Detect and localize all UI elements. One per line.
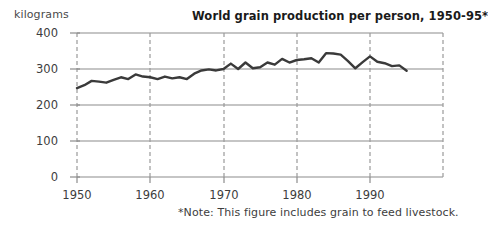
- y-tick-label-300: 300: [18, 62, 58, 76]
- x-tick-label-1990: 1990: [348, 188, 392, 202]
- y-tick-label-200: 200: [18, 98, 58, 112]
- x-tick-label-1970: 1970: [202, 188, 246, 202]
- y-axis-ticks: [70, 33, 80, 177]
- x-axis-ticks: [77, 177, 370, 183]
- y-tick-label-400: 400: [18, 26, 58, 40]
- data-series-line: [77, 53, 407, 88]
- chart-footnote: *Note: This figure includes grain to fee…: [178, 206, 459, 219]
- y-tick-label-100: 100: [18, 134, 58, 148]
- x-tick-label-1960: 1960: [128, 188, 172, 202]
- x-tick-label-1980: 1980: [275, 188, 319, 202]
- y-tick-label-0: 0: [18, 170, 58, 184]
- horizontal-gridlines: [77, 33, 443, 177]
- x-tick-label-1950: 1950: [55, 188, 99, 202]
